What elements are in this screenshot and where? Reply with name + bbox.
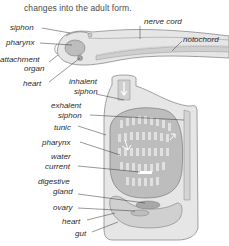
label-adult-heart: heart [62, 217, 80, 226]
label-inhalent-siphon-line2: siphon [74, 87, 98, 96]
label-attachment-organ-line2: organ [24, 64, 44, 73]
label-gut: gut [75, 229, 86, 238]
label-digestive-gland-line2: gland [53, 187, 73, 196]
label-exhalent-siphon-line2: siphon [58, 111, 82, 120]
label-larva-siphon: siphon [10, 23, 34, 32]
label-ovary: ovary [53, 203, 73, 212]
label-attachment-organ-line1: attachment [0, 55, 40, 64]
label-digestive-gland-line1: digestive [38, 177, 70, 186]
label-adult-pharynx: pharynx [42, 138, 70, 147]
label-larva-heart: heart [23, 79, 41, 88]
label-nerve-cord: nerve cord [144, 17, 182, 26]
label-tunic: tunic [54, 123, 71, 132]
label-inhalent-siphon-line1: inhalent [69, 77, 97, 86]
label-larva-pharynx: pharynx [6, 38, 34, 47]
label-water-current-line1: water [51, 152, 71, 161]
label-notochord: notochord [183, 35, 219, 44]
label-water-current-line2: current [45, 162, 70, 171]
adult-illustration [104, 75, 198, 240]
label-exhalent-siphon-line1: exhalent [51, 101, 81, 110]
